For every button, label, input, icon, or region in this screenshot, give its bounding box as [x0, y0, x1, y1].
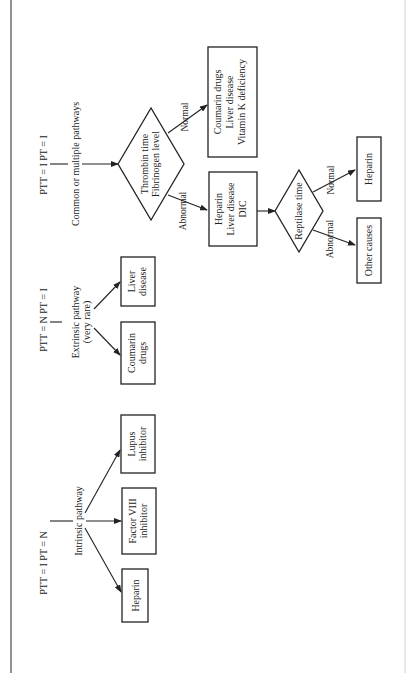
- label-extrinsic-line2: (very rare): [81, 301, 93, 343]
- arrow-to-liver-disease: [94, 282, 120, 309]
- arrow-to-heparin-left: [85, 528, 121, 592]
- outcome-coumarin-line1: Coumarin: [126, 333, 137, 373]
- outcome-lupus-inhibitor: Lupus inhibitor: [121, 415, 155, 473]
- outcome-heparin-left: Heparin: [122, 569, 148, 622]
- outcome-factor-viii-inhibitor: Factor VIII inhibitor: [122, 488, 156, 554]
- condition-common: PTT = I PT = I: [38, 135, 49, 195]
- edge-label-normal-2: Normal: [326, 165, 336, 194]
- decision-thrombin-line1: Thrombin time: [139, 133, 150, 194]
- label-intrinsic-pathway: Intrinsic pathway: [73, 486, 84, 556]
- outcome-liver-line2: disease: [137, 267, 148, 296]
- outcome-liver-line1: Liver: [126, 270, 137, 292]
- outcome-abnormal-heparin-liver-dic: Heparin Liver disease DIC: [209, 172, 257, 246]
- arrow-to-lupus: [85, 450, 120, 513]
- outcome-coumarin-line2: drugs: [137, 342, 148, 364]
- decision-thrombin-line2: Fibrinogen level: [150, 131, 161, 197]
- outcome-factor8-line2: inhibitor: [138, 503, 149, 538]
- condition-extrinsic: PTT = N PT = I: [38, 288, 49, 351]
- outcome-lupus-line1: Lupus: [126, 431, 137, 456]
- arrow-to-coumarin-drugs: [94, 328, 120, 355]
- label-common-pathways: Common or multiple pathways: [70, 102, 81, 226]
- outcome-other-causes-text: Other causes: [363, 225, 374, 276]
- outcome-abnormal-line2: Liver disease: [225, 182, 236, 236]
- outcome-factor8-line1: Factor VIII: [127, 498, 138, 543]
- outcome-normal-line1: Coumarin drugs: [212, 70, 223, 135]
- outcome-liver-disease: Liver disease: [121, 257, 155, 306]
- outcome-abnormal-line1: Heparin: [213, 193, 224, 225]
- decision-thrombin-fibrinogen: Thrombin time Fibrinogen level: [118, 108, 184, 220]
- outcome-lupus-line2: inhibitor: [137, 426, 148, 461]
- outcome-heparin-left-text: Heparin: [130, 579, 141, 611]
- outcome-normal-line3: Vitamin K deficiency: [236, 59, 247, 145]
- outcome-other-causes: Other causes: [357, 218, 381, 283]
- branch-extrinsic: PTT = N PT = I Extrinsic pathway (very r…: [38, 257, 155, 384]
- edge-label-abnormal-2: Abnormal: [325, 219, 335, 258]
- outcome-normal-line2: Liver disease: [224, 75, 235, 129]
- outcome-heparin-right-text: Heparin: [363, 153, 374, 185]
- coagulation-flowchart: PTT = I PT = N Intrinsic pathway Heparin…: [0, 0, 408, 673]
- condition-intrinsic: PTT = I PT = N: [38, 531, 49, 594]
- outcome-coumarin-drugs: Coumarin drugs: [121, 322, 155, 384]
- decision-reptilase-text: Reptilase time: [293, 182, 304, 240]
- branch-intrinsic: PTT = I PT = N Intrinsic pathway Heparin…: [38, 415, 156, 622]
- outcome-heparin-right: Heparin: [357, 137, 381, 201]
- edge-label-abnormal-1: Abnormal: [178, 191, 188, 230]
- branch-common: PTT = I PT = I Common or multiple pathwa…: [38, 47, 381, 283]
- outcome-normal-coumarin-liver-vitk: Coumarin drugs Liver disease Vitamin K d…: [208, 47, 257, 157]
- edge-label-normal-1: Normal: [180, 102, 190, 131]
- decision-reptilase-time: Reptilase time: [275, 170, 323, 252]
- label-extrinsic-line1: Extrinsic pathway: [70, 286, 81, 358]
- outcome-abnormal-line3: DIC: [237, 200, 248, 218]
